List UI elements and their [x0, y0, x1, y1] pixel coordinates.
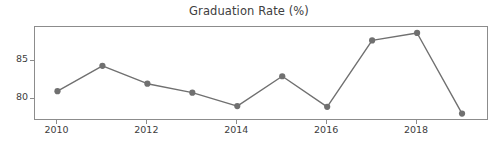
data-point — [279, 73, 285, 79]
y-axis-tick-label: 80 — [0, 91, 28, 102]
line-series-svg — [35, 27, 489, 121]
data-point — [144, 81, 150, 87]
data-point — [324, 104, 330, 110]
x-axis-tick-label: 2010 — [44, 124, 68, 135]
data-point — [189, 90, 195, 96]
x-axis-tick-label: 2014 — [224, 124, 248, 135]
x-axis-tick-label: 2018 — [404, 124, 428, 135]
data-point — [369, 37, 375, 43]
plot-area — [34, 26, 488, 120]
chart-title: Graduation Rate (%) — [0, 4, 498, 18]
data-point — [414, 30, 420, 36]
y-axis-tick-label: 85 — [0, 53, 28, 64]
chart-figure: Graduation Rate (%) 8085 201020122014201… — [0, 0, 498, 143]
data-point — [459, 110, 465, 116]
data-point — [99, 63, 105, 69]
data-point — [54, 88, 60, 94]
series-line — [57, 33, 462, 114]
x-axis-tick-label: 2016 — [314, 124, 338, 135]
data-point — [234, 103, 240, 109]
series-markers — [54, 30, 465, 117]
x-axis-tick-label: 2012 — [134, 124, 158, 135]
